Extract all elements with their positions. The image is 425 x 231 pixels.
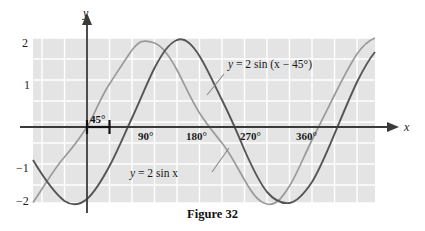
x-tick-label-90: 90° <box>138 130 153 142</box>
figure-32: 2 1 −1 −2 90° 180° 270° 360° y x 45° y =… <box>0 0 425 231</box>
sine-curves-plot <box>0 0 425 231</box>
y-axis-label: y <box>83 6 88 21</box>
curve-label-2-sin-x: y = 2 sin x <box>130 167 178 179</box>
x-axis-label: x <box>404 120 409 135</box>
y-tick-label-2: 2 <box>22 36 28 51</box>
y-tick-label-1: 1 <box>24 78 30 93</box>
figure-caption: Figure 32 <box>0 207 425 222</box>
phase-shift-bracket-label: 45° <box>90 113 105 125</box>
x-tick-label-360: 360° <box>296 130 317 142</box>
curve-label-2-sin-x-minus-45: y = 2 sin (x − 45°) <box>228 58 312 70</box>
y-tick-label-minus-1: −1 <box>16 161 29 176</box>
x-tick-label-270: 270° <box>240 130 261 142</box>
curve-label-1-text: = 2 sin x <box>135 167 178 179</box>
curve-label-2-text: = 2 sin (x − 45°) <box>233 58 312 70</box>
x-tick-label-180: 180° <box>186 130 207 142</box>
